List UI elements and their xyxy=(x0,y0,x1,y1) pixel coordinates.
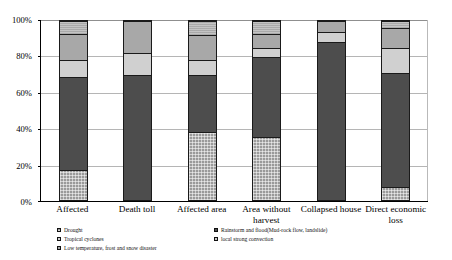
stacked-bar[interactable] xyxy=(317,20,346,201)
legend-label-low-temperature: Low temperature, frost and snow disaster xyxy=(64,245,157,251)
stacked-bar[interactable] xyxy=(123,20,152,201)
y-tickmark-0 xyxy=(38,201,41,202)
legend-item-tropical-cyclones: Tropical cyclones xyxy=(57,235,157,243)
plot-area xyxy=(40,20,428,202)
x-axis-label: Affected xyxy=(40,204,105,225)
legend-swatch-drought xyxy=(57,228,61,232)
y-tick-label-60: 60% xyxy=(16,89,32,98)
bar-segment xyxy=(189,75,216,132)
bar-slot xyxy=(299,20,364,201)
legend-column-right: Rainstorm and flood(Mud-rock flow, lands… xyxy=(214,226,327,244)
bar-segment xyxy=(253,48,280,57)
y-tick-label-80: 80% xyxy=(16,52,32,61)
legend-column-left: Drought Tropical cyclones Low temperatur… xyxy=(57,226,157,254)
x-axis-label: Affected area xyxy=(169,204,234,225)
legend-item-drought: Drought xyxy=(57,226,157,234)
bar-segment xyxy=(189,60,216,74)
stacked-bar[interactable] xyxy=(188,20,217,201)
legend-item-low-temperature: Low temperature, frost and snow disaster xyxy=(57,244,157,252)
bar-segment xyxy=(253,21,280,34)
bar-slot xyxy=(41,20,106,201)
y-tick-label-0: 0% xyxy=(21,198,32,207)
bar-segment xyxy=(124,53,151,74)
y-tick-label-20: 20% xyxy=(16,161,32,170)
bar-segment xyxy=(382,187,409,200)
legend-swatch-low-temperature xyxy=(57,246,61,250)
stacked-bar[interactable] xyxy=(381,20,410,201)
legend-label-drought: Drought xyxy=(64,227,83,233)
stacked-bar-chart: 100% 80% 60% 40% 20% 0% AffectedDeath to… xyxy=(0,0,452,260)
bar-segment xyxy=(60,77,87,170)
legend-swatch-strong-convection xyxy=(214,237,218,241)
bar-segment xyxy=(124,21,151,53)
legend-item-strong-convection: local strong convection xyxy=(214,235,327,243)
bar-segment xyxy=(318,32,345,43)
x-axis-label: Death toll xyxy=(105,204,170,225)
bar-segment xyxy=(60,34,87,61)
bar-segment xyxy=(253,34,280,48)
bar-segment xyxy=(318,21,345,32)
bar-segment xyxy=(189,132,216,200)
y-tick-label-100: 100% xyxy=(12,16,32,25)
bar-segment xyxy=(60,170,87,200)
bar-segment xyxy=(189,21,216,35)
bar-segment xyxy=(382,21,409,28)
bar-segment xyxy=(382,28,409,48)
bar-slot xyxy=(235,20,300,201)
bar-segment xyxy=(60,60,87,76)
bar-segment xyxy=(189,35,216,60)
chart-legend: Drought Tropical cyclones Low temperatur… xyxy=(0,226,452,260)
bar-segment xyxy=(382,48,409,73)
bar-slot xyxy=(106,20,171,201)
bar-segment xyxy=(318,42,345,200)
plot-axes xyxy=(40,20,428,202)
legend-swatch-tropical-cyclones xyxy=(57,237,61,241)
bar-slot xyxy=(364,20,429,201)
legend-item-rainstorm-flood: Rainstorm and flood(Mud-rock flow, lands… xyxy=(214,226,327,234)
stacked-bar[interactable] xyxy=(59,20,88,201)
legend-label-strong-convection: local strong convection xyxy=(221,236,273,242)
legend-label-rainstorm-flood: Rainstorm and flood(Mud-rock flow, lands… xyxy=(221,227,327,233)
bar-segment xyxy=(253,57,280,138)
bar-segment xyxy=(60,21,87,34)
y-tick-label-40: 40% xyxy=(16,125,32,134)
x-axis-labels: AffectedDeath tollAffected areaArea with… xyxy=(40,204,428,225)
legend-swatch-rainstorm-flood xyxy=(214,228,218,232)
bar-segment xyxy=(124,75,151,200)
legend-label-tropical-cyclones: Tropical cyclones xyxy=(64,236,104,242)
stacked-bar[interactable] xyxy=(252,20,281,201)
x-axis-label: Direct economic loss xyxy=(363,204,428,225)
bar-slot xyxy=(170,20,235,201)
y-axis-labels: 100% 80% 60% 40% 20% 0% xyxy=(0,20,36,202)
bar-segment xyxy=(253,137,280,200)
bars-container xyxy=(41,20,428,201)
x-axis-label: Collapsed house xyxy=(299,204,364,225)
x-axis-label: Area without harvest xyxy=(234,204,299,225)
bar-segment xyxy=(382,73,409,188)
